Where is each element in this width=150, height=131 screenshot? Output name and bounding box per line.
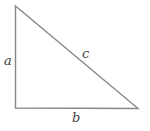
side-a-label: a xyxy=(4,54,12,67)
side-b-label: b xyxy=(72,111,80,124)
right-triangle-diagram: a c b xyxy=(0,0,150,131)
triangle-shape xyxy=(16,6,139,109)
side-c-label: c xyxy=(82,47,89,60)
